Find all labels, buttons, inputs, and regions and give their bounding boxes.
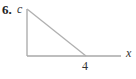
function-segment bbox=[27, 9, 86, 56]
graph bbox=[0, 0, 136, 79]
